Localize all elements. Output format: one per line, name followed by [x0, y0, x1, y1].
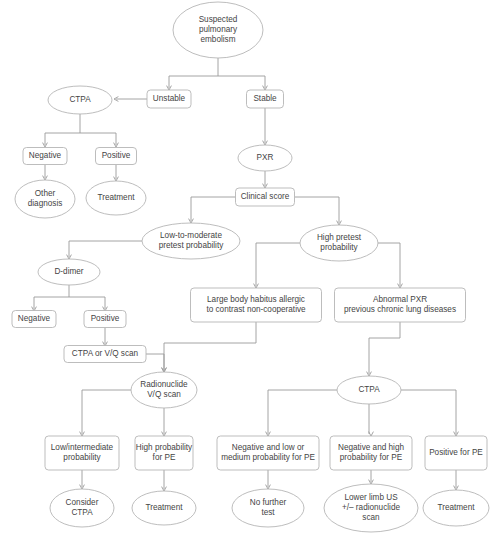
node-treatment_top[interactable]: Treatment: [86, 181, 146, 215]
node-radionuclide[interactable]: RadionuclideV/Q scan: [131, 372, 197, 408]
edge-suspected-to-stable: [263, 76, 268, 90]
node-label-positive_top: Positive: [102, 151, 131, 160]
edge-d_dimer-to-positive_dd: [103, 297, 108, 311]
node-label-consider_ctpa: CTPA: [71, 508, 93, 517]
node-label-ctpa_top: CTPA: [69, 95, 91, 104]
edge-neg_low_med-to-no_further: [266, 470, 271, 489]
edge-clinical_score-to-high_pretest: [295, 197, 341, 225]
node-label-other_diag: diagnosis: [28, 199, 63, 208]
node-label-pxr: PXR: [257, 153, 274, 162]
edge-ctpa_bottom-to-neg_low_med: [266, 390, 337, 436]
edge-radionuclide-to-high_prob_pe: [162, 408, 167, 436]
node-label-unstable: Unstable: [153, 94, 186, 103]
node-label-large_habitus: to contrast non-cooperative: [206, 305, 306, 314]
node-ctpa_top[interactable]: CTPA: [48, 86, 112, 114]
node-clinical_score[interactable]: Clinical score: [236, 188, 295, 206]
node-treatment_l[interactable]: Treatment: [132, 491, 196, 525]
node-label-treatment_r: Treatment: [437, 503, 475, 512]
edge-ctpa_bottom-to-neg_high: [369, 404, 374, 436]
edge-unstable-to-ctpa_top: [114, 97, 147, 102]
edge-pxr-to-clinical_score: [263, 171, 268, 188]
edge-radionuclide-to-low_inter: [80, 390, 131, 436]
node-label-large_habitus: Large body habitus allergic: [207, 295, 305, 304]
node-consider_ctpa[interactable]: ConsiderCTPA: [50, 489, 114, 527]
node-ctpa_bottom[interactable]: CTPA: [337, 376, 401, 404]
edge-suspected-to-unstable: [167, 58, 265, 90]
node-label-positive_pe: Positive for PE: [429, 448, 483, 457]
node-pxr[interactable]: PXR: [238, 145, 292, 171]
node-low_mod[interactable]: Low-to-moderatepretest probability: [142, 223, 240, 259]
node-label-suspected: Suspected: [199, 15, 238, 24]
node-label-positive_dd: Positive: [91, 314, 120, 323]
node-large_habitus[interactable]: Large body habitus allergicto contrast n…: [191, 288, 322, 322]
node-positive_pe[interactable]: Positive for PE: [425, 436, 487, 470]
edge-positive_top-to-treatment_top: [114, 165, 119, 181]
node-layer: SuspectedpulmonaryembolismUnstableStable…: [12, 2, 489, 532]
node-d_dimer[interactable]: D-dimer: [38, 259, 100, 285]
edge-positive_pe-to-treatment_r: [454, 470, 459, 490]
node-high_prob_pe[interactable]: High probabilityfor PE: [135, 436, 193, 470]
edge-positive_dd-to-ctpa_vq: [103, 328, 108, 346]
flowchart-svg: SuspectedpulmonaryembolismUnstableStable…: [0, 0, 501, 534]
node-positive_top[interactable]: Positive: [96, 148, 137, 165]
node-negative_dd[interactable]: Negative: [12, 311, 56, 328]
edge-neg_high-to-lower_limb: [369, 470, 374, 484]
node-label-abnormal_pxr: previous chronic lung diseases: [344, 305, 456, 314]
edge-large_habitus-to-radionuclide: [162, 322, 256, 372]
node-label-ctpa_bottom: CTPA: [358, 385, 380, 394]
node-label-stable: Stable: [253, 94, 277, 103]
edge-ctpa_top-to-negative_top: [43, 114, 116, 147]
node-neg_high[interactable]: Negative and highprobability for PE: [330, 436, 412, 470]
node-high_pretest[interactable]: High pretestprobability: [300, 225, 378, 261]
node-label-low_mod: pretest probability: [159, 241, 225, 250]
node-negative_top[interactable]: Negative: [23, 148, 67, 165]
node-label-d_dimer: D-dimer: [54, 267, 83, 276]
edge-clinical_score-to-low_mod: [189, 197, 236, 223]
node-label-clinical_score: Clinical score: [241, 192, 290, 201]
node-treatment_r[interactable]: Treatment: [423, 490, 489, 526]
node-neg_low_med[interactable]: Negative and low ormedium probability fo…: [217, 436, 319, 470]
node-label-suspected: embolism: [200, 35, 235, 44]
node-no_further[interactable]: No furthertest: [232, 489, 304, 527]
edge-stable-to-pxr: [263, 108, 268, 145]
node-stable[interactable]: Stable: [247, 90, 284, 108]
node-label-neg_low_med: Negative and low or: [232, 443, 305, 452]
edge-d_dimer-to-negative_dd: [32, 285, 105, 311]
node-label-ctpa_vq: CTPA or V/Q scan: [72, 349, 139, 358]
node-label-negative_top: Negative: [29, 151, 62, 160]
edge-low_mod-to-d_dimer: [67, 241, 142, 259]
node-ctpa_vq[interactable]: CTPA or V/Q scan: [64, 346, 146, 363]
node-label-other_diag: Other: [35, 189, 56, 198]
edge-abnormal_pxr-to-ctpa_bottom: [367, 322, 400, 376]
edge-ctpa_bottom-to-positive_pe: [401, 390, 458, 436]
edge-high_pretest-to-abnormal_pxr: [378, 243, 402, 288]
node-label-lower_limb: +/– radionuclide: [342, 503, 400, 512]
node-label-lower_limb: scan: [362, 513, 380, 522]
node-other_diag[interactable]: Otherdiagnosis: [15, 180, 75, 218]
node-label-neg_low_med: medium probability for PE: [221, 453, 315, 462]
node-label-negative_dd: Negative: [18, 314, 51, 323]
node-low_inter[interactable]: Low/intermediateprobability: [45, 436, 119, 470]
node-label-low_mod: Low-to-moderate: [160, 231, 222, 240]
node-abnormal_pxr[interactable]: Abnormal PXRprevious chronic lung diseas…: [335, 288, 466, 322]
edge-low_inter-to-consider_ctpa: [80, 470, 85, 489]
node-label-no_further: test: [261, 508, 275, 517]
edge-ctpa_vq-to-radionuclide: [146, 354, 166, 372]
node-lower_limb[interactable]: Lower limb US+/– radionuclidescan: [324, 484, 418, 532]
node-label-radionuclide: V/Q scan: [147, 390, 181, 399]
edge-ctpa_top-to-positive_top: [114, 133, 119, 147]
node-label-low_inter: probability: [63, 453, 101, 462]
node-positive_dd[interactable]: Positive: [84, 311, 126, 328]
node-label-neg_high: Negative and high: [338, 443, 404, 452]
node-label-high_pretest: probability: [320, 243, 358, 252]
node-label-radionuclide: Radionuclide: [140, 380, 188, 389]
node-label-no_further: No further: [250, 498, 287, 507]
flowchart-canvas: SuspectedpulmonaryembolismUnstableStable…: [0, 0, 501, 534]
node-label-neg_high: probability for PE: [340, 453, 403, 462]
edge-high_prob_pe-to-treatment_l: [162, 470, 167, 491]
edge-high_pretest-to-large_habitus: [254, 243, 300, 288]
node-label-lower_limb: Lower limb US: [344, 493, 398, 502]
edge-negative_top-to-other_diag: [43, 165, 48, 180]
node-suspected[interactable]: Suspectedpulmonaryembolism: [173, 2, 263, 58]
node-unstable[interactable]: Unstable: [147, 90, 191, 108]
